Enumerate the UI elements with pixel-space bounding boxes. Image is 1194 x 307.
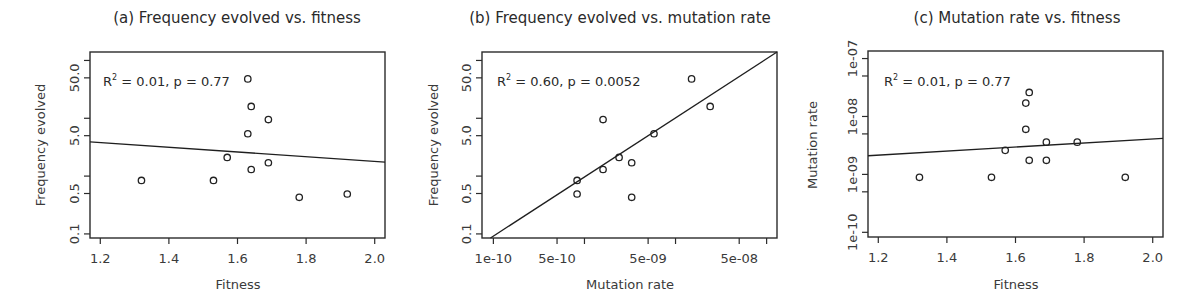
data-point [600, 166, 606, 172]
y-tick-label: 50.0 [459, 63, 474, 92]
panel-b-annotation: R2 = 0.60, p = 0.0052 [497, 73, 640, 89]
data-point [344, 191, 350, 197]
data-point [1043, 139, 1049, 145]
data-point [1074, 139, 1080, 145]
x-tick-label: 1.4 [159, 251, 180, 266]
panel-c-y-axis: 1e-101e-091e-081e-07 [845, 40, 868, 251]
panel-a-regression-line [90, 142, 385, 162]
data-point [1023, 126, 1029, 132]
data-point [916, 174, 922, 180]
data-point [574, 191, 580, 197]
data-point [628, 160, 634, 166]
data-point [1023, 100, 1029, 106]
data-point [600, 116, 606, 122]
data-point [296, 194, 302, 200]
data-point [248, 166, 254, 172]
panel-a-y-label: Frequency evolved [33, 84, 48, 207]
y-tick-label: 1e-10 [845, 214, 860, 252]
data-point [688, 76, 694, 82]
y-tick-label: 50.0 [67, 63, 82, 92]
data-point [1043, 157, 1049, 163]
y-tick-label: 1e-08 [845, 98, 860, 136]
x-tick-label: 1.8 [1074, 250, 1095, 265]
panel-c-x-label: Fitness [993, 277, 1038, 292]
panel-c-title: (c) Mutation rate vs. fitness [914, 9, 1121, 27]
data-point [265, 116, 271, 122]
panel-b-y-label: Frequency evolved [426, 84, 441, 207]
x-tick-label: 1.8 [296, 251, 317, 266]
x-tick-label: 1.6 [227, 251, 248, 266]
y-tick-label: 1e-07 [845, 40, 860, 78]
data-point [245, 131, 251, 137]
x-tick-label: 1.2 [90, 251, 111, 266]
x-tick-label: 1.2 [868, 250, 889, 265]
panel-a-title: (a) Frequency evolved vs. fitness [113, 9, 361, 27]
x-tick-label: 5e-10 [538, 251, 576, 266]
data-point [210, 177, 216, 183]
data-point [248, 103, 254, 109]
x-tick-label: 5e-09 [629, 251, 667, 266]
y-tick-label: 0.5 [459, 183, 474, 204]
panel-a-x-axis: 1.21.41.61.82.0 [90, 238, 385, 266]
data-point [988, 174, 994, 180]
panel-b-x-axis: 1e-105e-105e-095e-08 [475, 238, 767, 266]
figure: (a) Frequency evolved vs. fitness 1.21.4… [0, 0, 1194, 307]
data-point [138, 177, 144, 183]
panel-a-points [138, 76, 350, 201]
panel-b-y-axis: 0.10.55.050.0 [459, 60, 482, 244]
panel-b: (b) Frequency evolved vs. mutation rate … [426, 9, 777, 292]
data-point [265, 160, 271, 166]
x-tick-label: 1e-10 [475, 251, 513, 266]
x-tick-label: 1.6 [1005, 250, 1026, 265]
data-point [1122, 174, 1128, 180]
panel-c: (c) Mutation rate vs. fitness 1.21.41.61… [805, 9, 1163, 292]
panel-b-title: (b) Frequency evolved vs. mutation rate [469, 9, 771, 27]
panel-c-x-axis: 1.21.41.61.82.0 [868, 237, 1163, 265]
y-tick-label: 5.0 [67, 125, 82, 146]
x-tick-label: 1.4 [937, 250, 958, 265]
y-tick-label: 0.1 [459, 224, 474, 245]
data-point [628, 194, 634, 200]
y-tick-label: 1e-09 [845, 156, 860, 194]
panel-c-y-label: Mutation rate [805, 101, 820, 189]
data-point [245, 76, 251, 82]
panel-c-points [916, 89, 1128, 180]
panel-a-y-axis: 0.10.55.050.0 [67, 60, 90, 244]
panel-b-x-label: Mutation rate [586, 277, 674, 292]
panel-a-annotation: R2 = 0.01, p = 0.77 [103, 73, 230, 89]
x-tick-label: 5e-08 [720, 251, 758, 266]
x-tick-label: 2.0 [1142, 250, 1163, 265]
data-point [707, 103, 713, 109]
panel-a: (a) Frequency evolved vs. fitness 1.21.4… [33, 9, 385, 292]
data-point [1026, 157, 1032, 163]
panel-a-x-label: Fitness [215, 277, 260, 292]
panel-c-regression-line [868, 138, 1163, 155]
y-tick-label: 5.0 [459, 125, 474, 146]
data-point [224, 154, 230, 160]
x-tick-label: 2.0 [364, 251, 385, 266]
data-point [1026, 89, 1032, 95]
y-tick-label: 0.5 [67, 183, 82, 204]
y-tick-label: 0.1 [67, 224, 82, 245]
panel-c-annotation: R2 = 0.01, p = 0.77 [884, 73, 1011, 89]
